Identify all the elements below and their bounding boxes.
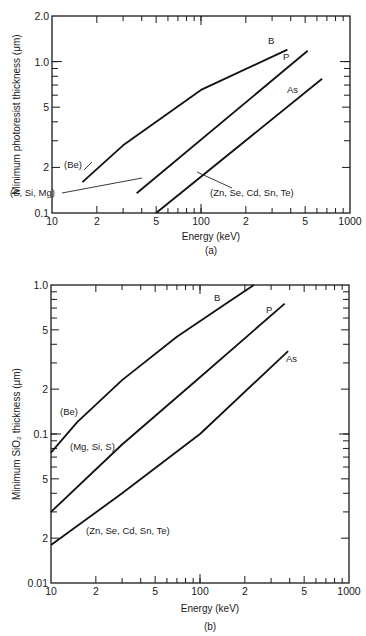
y-tick-label: 2.0 <box>34 10 49 22</box>
x-axis-label: Energy (keV) <box>181 603 239 614</box>
series-line-b <box>51 285 254 453</box>
x-axis-label: Energy (keV) <box>182 231 240 242</box>
x-tick-label: 5 <box>153 215 159 227</box>
x-tick-label: 100 <box>192 215 210 227</box>
y-tick-label: 2 <box>42 383 48 395</box>
figure-caption: (a) <box>205 245 217 256</box>
x-tick-label: 2 <box>243 215 249 227</box>
x-tick-label: 2 <box>93 585 99 597</box>
figure-caption: (b) <box>204 621 216 632</box>
y-tick-label: 2 <box>42 532 48 544</box>
series-label-as: As <box>287 84 298 95</box>
y-axis-label: Minimum photoresist thickness (μm) <box>11 34 22 194</box>
element-group-label: (Zn, Se, Cd, Sn, Te) <box>210 187 294 198</box>
leader-line <box>197 172 232 188</box>
element-group-label: (Be) <box>60 406 78 417</box>
figure: 10251002510000.1251.02.0Energy (keV)Mini… <box>0 0 366 636</box>
plot-frame <box>52 16 350 213</box>
y-tick-label: 5 <box>42 324 48 336</box>
element-group-label: (Mg, Si, S) <box>70 441 115 452</box>
series-label-p: P <box>283 51 289 62</box>
x-tick-label: 1000 <box>337 585 361 597</box>
series-line-b <box>82 50 287 183</box>
series-label-b: B <box>214 292 220 303</box>
x-tick-label: 5 <box>301 585 307 597</box>
y-tick-label: 2 <box>43 161 49 173</box>
x-tick-label: 5 <box>152 585 158 597</box>
series-label-as: As <box>286 353 297 364</box>
series-label-b: B <box>268 35 274 46</box>
y-tick-label: 0.1 <box>33 428 48 440</box>
y-axis-label: Minimum SiO₂ thickness (μm) <box>11 368 22 500</box>
element-group-label: (Be) <box>64 159 82 170</box>
element-group-label: (S, Si, Mg) <box>10 187 55 198</box>
y-tick-label: 0.01 <box>28 577 49 589</box>
y-tick-label: 1.0 <box>34 56 49 68</box>
leader-line <box>84 162 92 170</box>
y-tick-label: 1.0 <box>33 279 48 291</box>
leader-line <box>62 178 142 193</box>
y-tick-label: 0.1 <box>34 207 49 219</box>
y-tick-label: 5 <box>42 473 48 485</box>
element-group-label: (Zn, Se, Cd, Sn, Te) <box>86 525 170 536</box>
x-tick-label: 2 <box>94 215 100 227</box>
series-label-p: P <box>266 304 272 315</box>
y-tick-label: 5 <box>43 101 49 113</box>
series-line-p <box>137 51 308 194</box>
x-tick-label: 5 <box>302 215 308 227</box>
x-tick-label: 100 <box>191 585 209 597</box>
chart-a-photoresist: 10251002510000.1251.02.0Energy (keV)Mini… <box>10 10 362 256</box>
x-tick-label: 2 <box>242 585 248 597</box>
series-line-p <box>51 304 285 512</box>
chart-b-sio2: 10251002510000.01250.1251.0Energy (keV)M… <box>11 279 361 632</box>
x-tick-label: 1000 <box>338 215 362 227</box>
